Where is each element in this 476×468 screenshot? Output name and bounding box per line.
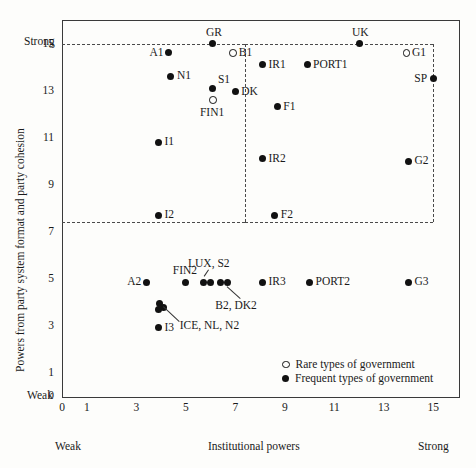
data-point-a2: [143, 279, 150, 286]
point-label-i1: I1: [165, 136, 175, 148]
point-label-fin1: FIN1: [200, 107, 224, 119]
data-point-fin1: [209, 96, 217, 104]
guide-line-horizontal: [245, 222, 433, 223]
legend-item-rare: Rare types of government: [282, 357, 433, 371]
point-label-a1: A1: [149, 47, 163, 59]
guide-line-vertical: [433, 44, 434, 223]
legend-item-frequent: Frequent types of government: [282, 371, 433, 385]
x-tick-11: 11: [320, 402, 348, 414]
x-tick-13: 13: [370, 402, 398, 414]
scatter-plot-figure: Powers from party system format and part…: [0, 0, 476, 468]
x-tick-3: 3: [122, 402, 150, 414]
x-axis-weak-label: Weak: [55, 440, 81, 452]
open-circle-marker-icon: [282, 361, 290, 369]
data-point-g3: [405, 279, 412, 286]
data-point-b1: [229, 49, 237, 57]
point-label-port1: PORT1: [313, 59, 347, 71]
point-label-i2: I2: [165, 209, 175, 221]
data-point-sp: [430, 75, 437, 82]
y-tick-3: 3: [28, 320, 54, 332]
point-label-s1: S1: [218, 74, 230, 86]
x-axis-title: Institutional powers: [208, 440, 300, 452]
data-point-b2: [217, 279, 224, 286]
data-point-i2: [155, 212, 162, 219]
guide-line-horizontal: [245, 44, 433, 45]
data-point-lux: [200, 279, 207, 286]
data-point-port2: [306, 279, 313, 286]
point-label-a2: A2: [127, 276, 141, 288]
legend-label-frequent: Frequent types of government: [295, 372, 433, 384]
x-tick-15: 15: [419, 402, 447, 414]
x-tick-5: 5: [172, 402, 200, 414]
data-point-g2: [405, 158, 412, 165]
point-label-uk: UK: [352, 27, 369, 39]
x-tick-1: 1: [73, 402, 101, 414]
point-label-i3: I3: [165, 322, 175, 334]
point-label-ir3: IR3: [268, 276, 285, 288]
data-point-g1: [403, 49, 411, 57]
y-tick-0: 0: [28, 390, 54, 402]
x-tick-7: 7: [221, 402, 249, 414]
data-point-uk: [356, 40, 363, 47]
point-label-f1: F1: [283, 101, 295, 113]
y-tick-1: 1: [28, 367, 54, 379]
data-point-ir3: [259, 279, 266, 286]
y-axis-title: Powers from party system format and part…: [14, 128, 26, 372]
point-label-f2: F2: [281, 209, 293, 221]
point-label-g2: G2: [415, 155, 429, 167]
data-point-fin2: [182, 279, 189, 286]
data-point-port1: [304, 61, 311, 68]
x-tick-9: 9: [271, 402, 299, 414]
data-point-n2: [155, 306, 162, 313]
data-point-dk: [232, 88, 239, 95]
point-label-g1: G1: [412, 47, 426, 59]
callout-label-lux-s2: LUX, S2: [188, 258, 230, 270]
y-tick-11: 11: [28, 132, 54, 144]
point-label-ir1: IR1: [268, 59, 285, 71]
data-point-s2: [207, 279, 214, 286]
point-label-gr: GR: [206, 27, 222, 39]
legend-label-rare: Rare types of government: [296, 358, 415, 370]
callout-label-b2-dk2: B2, DK2: [215, 300, 257, 312]
point-label-b1: B1: [239, 47, 252, 59]
callout-label-ice-nl-n2: ICE, NL, N2: [180, 320, 239, 332]
plot-area: [62, 20, 460, 398]
guide-line-horizontal-extension: [62, 222, 245, 223]
y-tick-5: 5: [28, 273, 54, 285]
guide-line-horizontal-extension: [62, 44, 245, 45]
point-label-g3: G3: [415, 276, 429, 288]
y-tick-9: 9: [28, 179, 54, 191]
legend: Rare types of government Frequent types …: [282, 357, 433, 385]
point-label-dk: DK: [241, 86, 258, 98]
x-axis-strong-label: Strong: [418, 440, 449, 452]
data-point-i1: [155, 139, 162, 146]
filled-circle-marker-icon: [282, 375, 289, 382]
point-label-ir2: IR2: [268, 153, 285, 165]
point-label-n1: N1: [177, 70, 191, 82]
y-tick-15: 15: [28, 38, 54, 50]
point-label-sp: SP: [414, 73, 427, 85]
y-tick-13: 13: [28, 85, 54, 97]
point-label-port2: PORT2: [316, 276, 350, 288]
data-point-dk2: [224, 279, 231, 286]
guide-line-vertical: [245, 44, 246, 223]
y-tick-7: 7: [28, 226, 54, 238]
data-point-f2: [271, 212, 278, 219]
